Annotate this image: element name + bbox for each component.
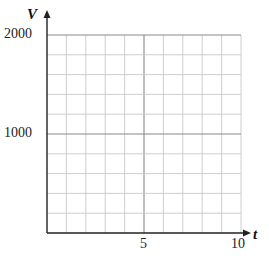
grid-lines [47, 35, 241, 233]
x-tick-10: 10 [231, 236, 245, 252]
x-tick-5: 5 [140, 236, 147, 252]
axes [44, 10, 252, 237]
y-tick-1000: 1000 [4, 125, 32, 141]
y-axis-label: V [27, 6, 37, 23]
x-axis-label: t [253, 226, 257, 243]
empty-grid-chart [0, 0, 269, 259]
y-tick-2000: 2000 [4, 26, 32, 42]
y-axis-arrow-icon [44, 10, 51, 18]
